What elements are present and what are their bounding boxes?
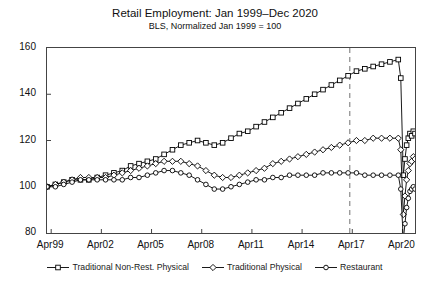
data-point [404, 143, 409, 148]
legend-marker-circle-icon [315, 263, 337, 272]
data-point [203, 167, 209, 173]
data-point [137, 175, 142, 180]
data-point [303, 151, 309, 157]
plot-area [46, 47, 416, 234]
data-point [312, 92, 317, 97]
data-point [346, 73, 351, 78]
legend-item-2[interactable]: Restaurant [315, 262, 383, 272]
data-point [271, 115, 276, 120]
data-point [53, 184, 58, 189]
data-point [195, 138, 200, 143]
data-point [396, 173, 401, 178]
data-point [153, 171, 158, 176]
data-point [271, 175, 276, 180]
data-point [398, 187, 403, 192]
y-tick-label-160: 160 [4, 41, 36, 52]
y-tick-label-120: 120 [4, 134, 36, 145]
data-point [354, 171, 359, 176]
data-point [304, 97, 309, 102]
data-point [220, 187, 225, 192]
data-point [388, 60, 393, 65]
data-point [287, 173, 292, 178]
data-point [279, 110, 284, 115]
data-point [161, 158, 167, 164]
chart-title: Retail Employment: Jan 1999–Dec 2020 [0, 7, 430, 19]
data-point [337, 171, 342, 176]
data-point [329, 83, 334, 88]
data-point [178, 158, 184, 164]
data-point [320, 147, 326, 153]
data-point [296, 101, 301, 106]
data-point [103, 178, 108, 183]
data-point [286, 156, 292, 162]
data-point [186, 161, 192, 167]
data-point [337, 78, 342, 83]
data-point [87, 178, 92, 183]
data-point [362, 137, 368, 143]
data-point [212, 187, 217, 192]
y-tick-label-100: 100 [4, 180, 36, 191]
series-canvas [47, 48, 415, 233]
data-point [204, 182, 209, 187]
data-point [204, 141, 209, 146]
data-point [195, 178, 200, 183]
data-point [162, 152, 167, 157]
legend-item-1[interactable]: Traditional Physical [202, 262, 302, 272]
data-point [296, 173, 301, 178]
data-point [295, 154, 301, 160]
x-tick-label-Apr20: Apr20 [371, 239, 430, 250]
data-point [212, 143, 217, 148]
data-point [321, 171, 326, 176]
data-point [395, 135, 401, 141]
data-point [363, 173, 368, 178]
data-point [278, 158, 284, 164]
data-point [262, 178, 267, 183]
data-point [287, 106, 292, 111]
data-point [229, 184, 234, 189]
data-point [387, 135, 393, 141]
data-point [371, 64, 376, 69]
data-point [162, 168, 167, 173]
data-point [236, 172, 242, 178]
data-point [403, 157, 408, 162]
data-point [328, 144, 334, 150]
data-point [261, 165, 267, 171]
data-point [112, 178, 117, 183]
data-point [370, 135, 376, 141]
data-point [47, 184, 49, 189]
data-point [337, 142, 343, 148]
data-point [353, 137, 359, 143]
data-point [379, 173, 384, 178]
data-point [210, 264, 216, 270]
y-tick-label-80: 80 [4, 226, 36, 237]
series-0 [47, 57, 415, 189]
legend-item-0[interactable]: Traditional Non-Rest. Physical [47, 262, 189, 272]
data-point [211, 172, 217, 178]
data-point [220, 141, 225, 146]
data-point [403, 221, 408, 226]
data-point [120, 178, 125, 183]
data-point [312, 173, 317, 178]
data-point [61, 182, 66, 187]
data-point [254, 178, 259, 183]
data-point [404, 205, 409, 210]
legend-marker-diamond-icon [202, 263, 224, 272]
data-point [304, 173, 309, 178]
data-point [169, 158, 175, 164]
data-point [245, 129, 250, 134]
data-point [270, 161, 276, 167]
data-point [187, 141, 192, 146]
data-point [229, 136, 234, 141]
data-point [253, 167, 259, 173]
data-point [396, 57, 401, 62]
data-point [388, 173, 393, 178]
data-point [413, 131, 415, 136]
data-point [378, 135, 384, 141]
data-point [405, 167, 411, 173]
data-point [145, 173, 150, 178]
data-point [406, 196, 411, 201]
data-point [279, 175, 284, 180]
data-point [170, 147, 175, 152]
data-point [245, 170, 251, 176]
data-point [398, 76, 403, 81]
